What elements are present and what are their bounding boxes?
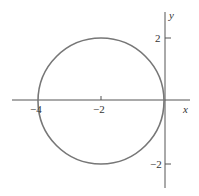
- circle-curve: [38, 38, 164, 164]
- y-tick-label-2: 2: [155, 32, 161, 44]
- x-tick-label-neg4: −4: [30, 103, 42, 115]
- x-tick-label-neg2: −2: [93, 103, 105, 115]
- y-axis-label: y: [168, 9, 174, 21]
- y-tick-label-neg2: −2: [150, 158, 162, 170]
- x-axis-label: x: [182, 103, 188, 115]
- circle-plot: −4 −2 2 −2 x y: [0, 0, 199, 196]
